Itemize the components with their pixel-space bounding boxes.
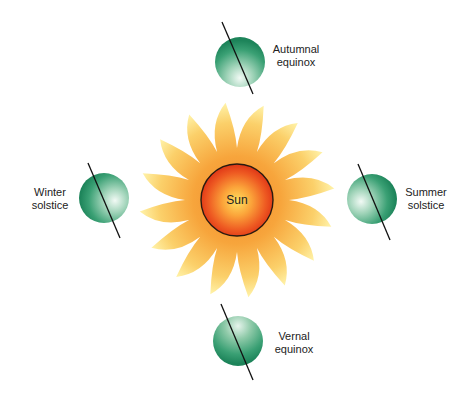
label-line-2: equinox xyxy=(270,343,318,356)
label-line-2: solstice xyxy=(28,199,72,212)
label-line-2: equinox xyxy=(268,56,324,69)
label-line-1: Autumnal xyxy=(268,43,324,56)
label-winter-solstice: Winter solstice xyxy=(28,186,72,212)
label-line-1: Winter xyxy=(28,186,72,199)
label-autumnal-equinox: Autumnal equinox xyxy=(268,43,324,69)
earth-vernal-equinox xyxy=(213,304,263,380)
label-summer-solstice: Summer solstice xyxy=(400,186,452,212)
label-line-1: Vernal xyxy=(270,330,318,343)
earth-autumnal-equinox xyxy=(215,22,265,94)
label-line-1: Summer xyxy=(400,186,452,199)
label-vernal-equinox: Vernal equinox xyxy=(270,330,318,356)
sun-label: Sun xyxy=(207,193,267,207)
earth-winter-solstice xyxy=(79,163,129,238)
label-line-2: solstice xyxy=(400,199,452,212)
earth-summer-solstice xyxy=(347,164,397,240)
